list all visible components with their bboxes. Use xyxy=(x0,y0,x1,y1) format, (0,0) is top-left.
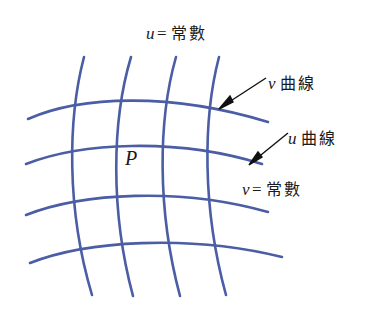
label-v-constant-equals: = xyxy=(251,180,263,199)
arrow-to-u-curve xyxy=(249,133,288,165)
label-u-constant-variable: u xyxy=(146,24,156,43)
u-curve-2 xyxy=(116,57,133,296)
label-v-constant-variable: v xyxy=(242,180,251,199)
label-u-constant: u=常數 xyxy=(146,25,207,42)
label-v-curve-variable: v xyxy=(268,74,277,93)
label-u-curve-variable: u xyxy=(288,129,298,148)
label-v-curve: v曲線 xyxy=(268,75,316,92)
label-point-p: P xyxy=(125,148,138,168)
label-u-constant-text: 常數 xyxy=(168,24,207,43)
u-curve-4 xyxy=(207,57,226,295)
u-curve-1 xyxy=(72,57,92,295)
v-curve-1 xyxy=(28,101,268,122)
u-curve-3 xyxy=(163,57,180,296)
v-curve-3 xyxy=(26,196,268,215)
curvilinear-grid-figure: u=常數 v曲線 u曲線 v=常數 P xyxy=(0,0,375,327)
arrow-to-v-curve xyxy=(219,78,266,109)
v-curve-4 xyxy=(30,243,282,263)
label-u-curve-text: 曲線 xyxy=(298,129,337,148)
label-u-curve: u曲線 xyxy=(288,130,337,147)
label-v-constant: v=常數 xyxy=(242,181,302,198)
label-v-constant-text: 常數 xyxy=(263,180,302,199)
v-curve-2 xyxy=(26,146,262,164)
grid-curves-svg xyxy=(0,0,375,327)
label-u-constant-equals: = xyxy=(156,24,168,43)
label-v-curve-text: 曲線 xyxy=(277,74,316,93)
